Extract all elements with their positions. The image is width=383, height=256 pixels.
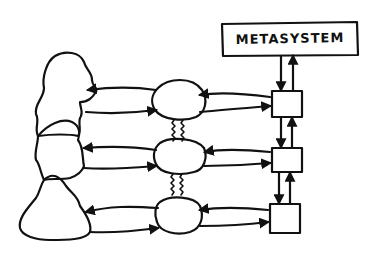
environment-blob-2 — [35, 121, 84, 180]
coordination-links — [171, 120, 184, 195]
operation-circle-2 — [154, 139, 206, 174]
management-box-1 — [272, 91, 302, 117]
management-box-3 — [270, 204, 300, 233]
metasystem-label: METASYSTEM — [222, 21, 359, 56]
operation-circle-3 — [155, 197, 202, 233]
environment-blob-1 — [36, 53, 97, 136]
environment-operation-loops — [84, 87, 158, 232]
management-box-2 — [272, 148, 302, 172]
environment-blob-3 — [20, 176, 91, 240]
operation-circle-1 — [152, 80, 205, 120]
operation-management-loops — [200, 93, 270, 226]
vertical-channels — [279, 56, 293, 203]
